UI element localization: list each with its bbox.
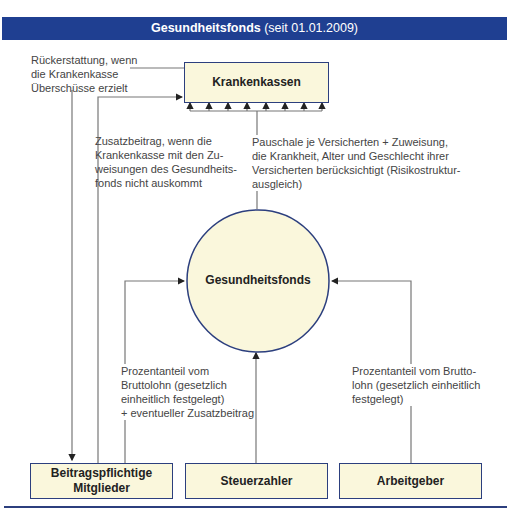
edge-label-rueckerstattung: Rückerstattung, wenn die Krankenkasse Üb… xyxy=(31,53,137,95)
node-steuerzahler: Steuerzahler xyxy=(185,463,328,499)
label-line: Versicherten berücksichtigt (Risikostruk… xyxy=(252,163,460,177)
label-line: Prozentanteil vom xyxy=(121,364,254,378)
label-line: Überschüsse erzielt xyxy=(31,81,137,95)
label-line: Bruttolohn (gesetzlich xyxy=(121,378,254,392)
node-beitragspflichtige-mitglieder: Beitragspflichtige Mitglieder xyxy=(30,463,173,499)
label-line: Prozentanteil vom Brutto- xyxy=(352,364,480,378)
node-krankenkassen: Krankenkassen xyxy=(184,62,329,103)
label-line: fonds nicht auskommt xyxy=(95,176,237,190)
edge-label-arbeitgeber-beitrag: Prozentanteil vom Brutto- lohn (gesetzli… xyxy=(352,364,480,406)
bottom-rule xyxy=(4,506,507,508)
node-label-line2: Mitglieder xyxy=(73,481,130,496)
label-line: Zusatzbeitrag, wenn die xyxy=(95,134,237,148)
edge-label-zusatzbeitrag: Zusatzbeitrag, wenn die Krankenkasse mit… xyxy=(95,134,237,190)
label-line: ausgleich) xyxy=(252,177,460,191)
label-line: festgelegt) xyxy=(352,392,480,406)
node-label-line1: Beitragspflichtige xyxy=(51,466,152,481)
label-line: die Krankenkasse xyxy=(31,67,137,81)
edge-label-mitglieder-beitrag: Prozentanteil vom Bruttolohn (gesetzlich… xyxy=(121,364,254,420)
node-arbeitgeber: Arbeitgeber xyxy=(339,463,482,499)
label-line: die Krankheit, Alter und Geschlecht ihre… xyxy=(252,149,460,163)
label-line: weisungen des Gesundheits- xyxy=(95,162,237,176)
label-line: + eventueller Zusatzbeitrag xyxy=(121,406,254,420)
node-gesundheitsfonds-label: Gesundheitsfonds xyxy=(188,273,328,287)
label-line: Rückerstattung, wenn xyxy=(31,53,137,67)
label-line: lohn (gesetzlich einheitlich xyxy=(352,378,480,392)
edge-label-pauschale: Pauschale je Versicherten + Zuweisung, d… xyxy=(252,135,460,191)
node-label: Steuerzahler xyxy=(220,474,292,489)
label-line: Pauschale je Versicherten + Zuweisung, xyxy=(252,135,460,149)
node-label: Arbeitgeber xyxy=(377,474,444,489)
label-line: einheitlich festgelegt) xyxy=(121,392,254,406)
node-label: Krankenkassen xyxy=(212,75,301,90)
label-line: Krankenkasse mit den Zu- xyxy=(95,148,237,162)
